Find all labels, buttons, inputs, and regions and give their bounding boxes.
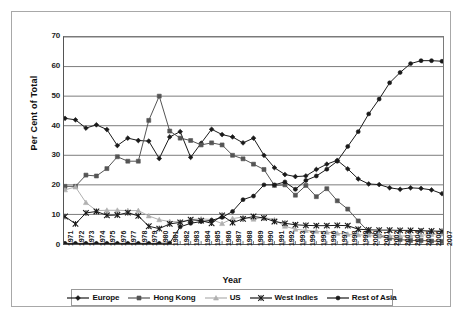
x-tick-label: 1972 [78,231,85,246]
y-axis-ticks: 010203040506070 [30,36,60,245]
x-tick-label: 1990 [267,231,274,246]
legend-marker-diamond-icon [67,293,89,303]
legend-marker-star-icon [250,293,272,303]
x-tick-label: 1997 [341,231,348,246]
x-tick-label: 2006 [435,231,442,246]
x-tick-label: 1975 [109,231,116,246]
y-tick-label: 0 [34,240,60,249]
y-tick-label: 30 [34,150,60,159]
x-tick-label: 1978 [141,231,148,246]
x-tick-label: 1987 [235,231,242,246]
x-tick-label: 2005 [425,231,432,246]
y-tick-label: 50 [34,91,60,100]
x-tick-label: 1988 [246,231,253,246]
series-europe [64,116,443,196]
x-tick-label: 1986 [225,231,232,246]
x-tick-label: 2001 [383,231,390,246]
y-tick-label: 70 [34,31,60,40]
plot-area [63,36,444,245]
x-tick-label: 1991 [278,231,285,246]
x-tick-label: 1974 [99,231,106,246]
legend-marker-circle-icon [327,293,349,303]
x-tick-label: 2007 [446,231,453,246]
x-tick-label: 1985 [214,231,221,246]
x-tick-label: 1989 [257,231,264,246]
legend-item-rest-of-asia[interactable]: Rest of Asia [327,293,397,303]
legend-item-us[interactable]: US [205,293,241,303]
legend-label: West Indies [275,293,318,302]
x-tick-label: 1995 [320,231,327,246]
chart-canvas [64,37,443,244]
legend-label: Rest of Asia [352,293,397,302]
legend-label: Hong Kong [153,293,195,302]
x-tick-label: 2003 [404,231,411,246]
chart-legend: EuropeHong KongUSWest IndiesRest of Asia [71,289,393,306]
y-tick-label: 20 [34,180,60,189]
x-axis-ticks: 1971197219731974197519761977197819791980… [63,246,444,276]
legend-label: US [230,293,241,302]
x-tick-label: 1983 [193,231,200,246]
x-tick-label: 1996 [330,231,337,246]
x-tick-label: 2002 [393,231,400,246]
x-tick-label: 1984 [204,231,211,246]
chart-frame: Per Cent of Total 010203040506070 197119… [11,11,451,307]
chart-page: Per Cent of Total 010203040506070 197119… [0,0,464,325]
legend-item-hong-kong[interactable]: Hong Kong [128,293,195,303]
legend-label: Europe [92,293,119,302]
x-tick-label: 1982 [183,231,190,246]
x-tick-label: 1977 [130,231,137,246]
x-tick-label: 1980 [162,231,169,246]
y-tick-label: 60 [34,61,60,70]
legend-item-europe[interactable]: Europe [67,293,119,303]
x-tick-label: 1993 [299,231,306,246]
y-tick-label: 10 [34,210,60,219]
legend-item-west-indies[interactable]: West Indies [250,293,318,303]
x-tick-label: 1998 [351,231,358,246]
x-tick-label: 2000 [372,231,379,246]
x-axis-title: Year [12,275,452,285]
x-tick-label: 2004 [414,231,421,246]
x-tick-label: 1999 [362,231,369,246]
x-tick-label: 1971 [67,231,74,246]
x-tick-label: 1992 [288,231,295,246]
y-tick-label: 40 [34,121,60,130]
x-tick-label: 1994 [309,231,316,246]
x-tick-label: 1979 [151,231,158,246]
legend-marker-square-icon [128,293,150,303]
legend-marker-triangle-icon [205,293,227,303]
x-tick-label: 1976 [120,231,127,246]
x-tick-label: 1973 [88,231,95,246]
x-tick-label: 1981 [172,231,179,246]
